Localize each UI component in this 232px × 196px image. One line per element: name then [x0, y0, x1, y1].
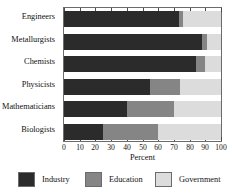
axis-tick-mark — [221, 8, 222, 12]
plot-frame — [63, 7, 222, 142]
bar-row — [64, 124, 221, 140]
category-label-mathematicians: Mathematicians — [2, 101, 55, 113]
legend-item-government[interactable]: Government — [155, 170, 220, 188]
bar-segment-education — [150, 79, 180, 95]
legend-item-industry[interactable]: Industry — [18, 170, 70, 188]
bar-segment-industry — [64, 11, 179, 27]
x-tick-label: 50 — [139, 143, 147, 153]
x-tick-label: 70 — [170, 143, 178, 153]
category-label-metallurgists: Metallurgists — [11, 34, 55, 46]
category-axis-labels: EngineersMetallurgistsChemistsPhysicists… — [0, 6, 59, 143]
bar-segment-industry — [64, 79, 150, 95]
bar-segment-government — [207, 34, 221, 50]
x-tick-label: 0 — [62, 143, 66, 153]
bar-segment-government — [174, 101, 221, 117]
plot-area: EngineersMetallurgistsChemistsPhysicists… — [0, 0, 232, 150]
category-label-biologists: Biologists — [21, 124, 55, 136]
legend-label: Education — [109, 175, 143, 184]
bar-segment-government — [205, 56, 221, 72]
chart-legend: IndustryEducationGovernment — [0, 170, 232, 192]
stacked-bar-chart: EngineersMetallurgistsChemistsPhysicists… — [0, 0, 232, 196]
bar-segment-government — [180, 79, 221, 95]
x-tick-label: 80 — [186, 143, 194, 153]
legend-label: Industry — [42, 175, 70, 184]
bar-row — [64, 11, 221, 27]
bar-segment-education — [196, 56, 205, 72]
bar-segment-industry — [64, 101, 127, 117]
x-tick-label: 10 — [76, 143, 84, 153]
bar-row — [64, 79, 221, 95]
bar-row — [64, 34, 221, 50]
category-label-engineers: Engineers — [22, 11, 55, 23]
legend-swatch-industry — [18, 172, 35, 187]
legend-item-education[interactable]: Education — [85, 170, 143, 188]
x-tick-label: 60 — [154, 143, 162, 153]
category-label-physicists: Physicists — [22, 79, 55, 91]
legend-swatch-education — [85, 172, 102, 187]
x-tick-label: 100 — [215, 143, 226, 153]
bar-row — [64, 56, 221, 72]
bar-segment-industry — [64, 56, 196, 72]
x-tick-label: 90 — [201, 143, 209, 153]
legend-label: Government — [179, 175, 220, 184]
bar-segment-government — [158, 124, 221, 140]
x-tick-label: 40 — [123, 143, 131, 153]
legend-swatch-government — [155, 172, 172, 187]
axis-tick-mark — [221, 137, 222, 141]
bar-segment-industry — [64, 34, 202, 50]
bar-segment-education — [127, 101, 174, 117]
x-tick-label: 20 — [91, 143, 99, 153]
x-axis-title: Percent — [63, 153, 222, 162]
category-label-chemists: Chemists — [24, 56, 55, 68]
bar-row — [64, 101, 221, 117]
bar-segment-government — [183, 11, 221, 27]
bar-segment-education — [103, 124, 158, 140]
x-tick-label: 30 — [107, 143, 115, 153]
bar-segment-industry — [64, 124, 103, 140]
